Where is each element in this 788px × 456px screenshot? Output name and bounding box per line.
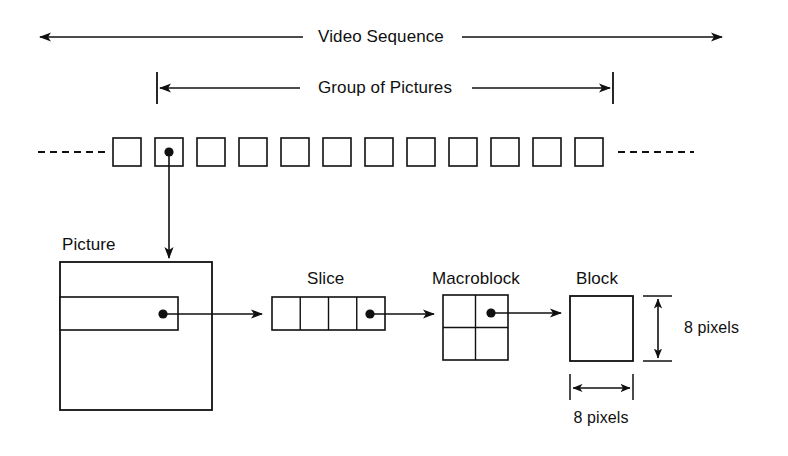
macroblock-label: Macroblock — [432, 270, 520, 287]
picture-box — [60, 262, 212, 410]
picture-label: Picture — [62, 236, 116, 253]
picture-frame-strip — [38, 138, 694, 258]
picture-slice-dot — [158, 309, 167, 318]
frame-box — [575, 138, 603, 166]
macroblock-stage — [443, 295, 561, 360]
frame-box — [407, 138, 435, 166]
frame-box — [533, 138, 561, 166]
slice-macroblock-dot — [365, 309, 374, 318]
block-width-label: 8 pixels — [573, 410, 628, 426]
frame-box — [113, 138, 141, 166]
block-height-dimension — [643, 296, 672, 361]
frame-box — [239, 138, 267, 166]
frame-box — [449, 138, 477, 166]
mpeg-structure-diagram: Video Sequence Group of Pictures Picture… — [0, 0, 788, 456]
macroblock-block-dot — [486, 308, 495, 317]
frame-box — [323, 138, 351, 166]
slice-stage — [272, 297, 434, 330]
video-sequence-label: Video Sequence — [318, 28, 444, 45]
frame-box — [365, 138, 393, 166]
frame-marker-dot — [164, 147, 173, 156]
group-of-pictures-label: Group of Pictures — [318, 79, 452, 96]
picture-stage — [60, 262, 262, 410]
diagram-canvas — [0, 0, 788, 456]
slice-label: Slice — [307, 270, 344, 287]
frame-box — [491, 138, 519, 166]
frame-box — [197, 138, 225, 166]
block-box — [570, 296, 633, 361]
block-width-dimension — [570, 374, 633, 400]
block-height-label: 8 pixels — [684, 320, 739, 336]
block-stage — [570, 296, 633, 361]
frame-box — [281, 138, 309, 166]
block-label: Block — [576, 270, 618, 287]
